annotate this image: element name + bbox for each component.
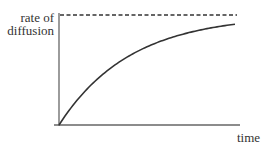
chart-plot xyxy=(0,0,274,147)
rate-curve xyxy=(59,24,235,125)
